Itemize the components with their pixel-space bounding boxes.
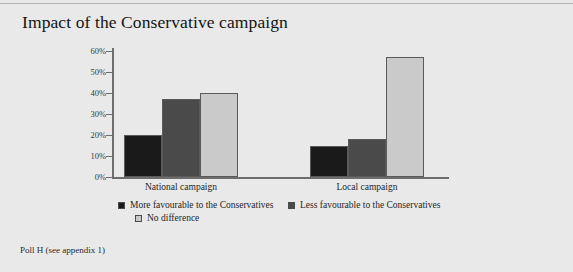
y-axis-tick-label: 30% — [76, 109, 106, 119]
y-axis-tick — [106, 156, 112, 157]
legend-row-1: More favourable to the Conservatives Les… — [118, 200, 458, 213]
legend-item-no-difference: No difference — [135, 213, 199, 223]
chart-legend: More favourable to the Conservatives Les… — [118, 200, 458, 226]
x-axis-category-label: National campaign — [145, 182, 217, 192]
y-axis-tick — [106, 51, 112, 52]
figure-container: Impact of the Conservative campaign 0%10… — [0, 0, 573, 272]
y-axis-tick-label: 50% — [76, 67, 106, 77]
y-axis-tick — [106, 135, 112, 136]
legend-label: Less favourable to the Conservatives — [300, 200, 440, 210]
legend-row-2: No difference — [118, 213, 458, 226]
bar-chart-plot: 0%10%20%30%40%50%60% National campaignLo… — [0, 0, 573, 272]
bar — [310, 146, 348, 178]
bar — [348, 139, 386, 177]
legend-item-more-favourable: More favourable to the Conservatives — [118, 200, 274, 210]
y-axis-tick-label: 0% — [76, 172, 106, 182]
legend-label: No difference — [147, 213, 199, 223]
legend-swatch-icon — [288, 202, 295, 209]
y-axis-tick-label: 10% — [76, 151, 106, 161]
y-axis-tick — [106, 114, 112, 115]
y-axis-tick-label: 40% — [76, 88, 106, 98]
legend-swatch-icon — [118, 202, 125, 209]
bar — [386, 57, 424, 177]
x-axis-category-label: Local campaign — [337, 182, 398, 192]
legend-swatch-icon — [135, 215, 142, 222]
y-axis-tick-label: 20% — [76, 130, 106, 140]
y-axis-tick — [106, 177, 112, 178]
y-axis-tick-label: 60% — [76, 46, 106, 56]
source-note: Poll H (see appendix 1) — [20, 245, 105, 255]
legend-label: More favourable to the Conservatives — [130, 200, 274, 210]
bar — [124, 135, 162, 177]
y-axis-tick — [106, 93, 112, 94]
bar — [200, 93, 238, 177]
x-axis-line — [112, 177, 449, 179]
y-axis-tick — [106, 72, 112, 73]
y-axis-line — [112, 48, 114, 179]
bar — [162, 99, 200, 177]
legend-item-less-favourable: Less favourable to the Conservatives — [288, 200, 440, 210]
